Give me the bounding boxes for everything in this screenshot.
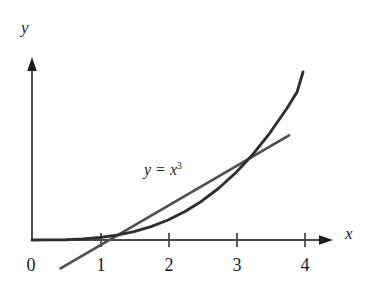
x-tick-label-2: 2 [159,255,179,276]
figure-canvas: y x 0 1 2 3 4 y = x3 [0,0,369,289]
x-tick-label-0: 0 [21,255,41,276]
curve-equation-exponent: 3 [177,160,182,171]
cubic-tangent-plot [0,0,369,289]
x-tick-label-4: 4 [295,255,315,276]
curve-equation-base: y = x [144,161,177,178]
x-axis-label: x [345,224,353,244]
tangent-line [61,135,289,268]
y-axis-arrowhead [27,57,37,71]
x-tick-label-3: 3 [227,255,247,276]
x-axis-arrowhead [319,235,333,245]
x-tick-label-1: 1 [91,255,111,276]
curve-equation-label: y = x3 [144,161,182,179]
y-axis-label: y [21,18,29,38]
cubic-curve [32,72,303,240]
